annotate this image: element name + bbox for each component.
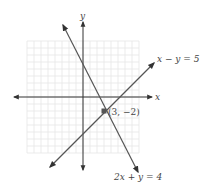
y-axis-label: y [79, 11, 86, 21]
line-2x-plus-y-eq-4 [63, 25, 138, 172]
x-axis-label: x [155, 92, 160, 102]
intersection-label: (3, −2) [108, 107, 140, 117]
intersection-point [102, 109, 107, 114]
equation-label-x-minus-y: x − y = 5 [157, 54, 200, 64]
equation-label-2x-plus-y: 2x + y = 4 [113, 172, 162, 182]
coordinate-graph: x y (3, −2) x − y = 5 2x + y = 4 [0, 0, 201, 191]
